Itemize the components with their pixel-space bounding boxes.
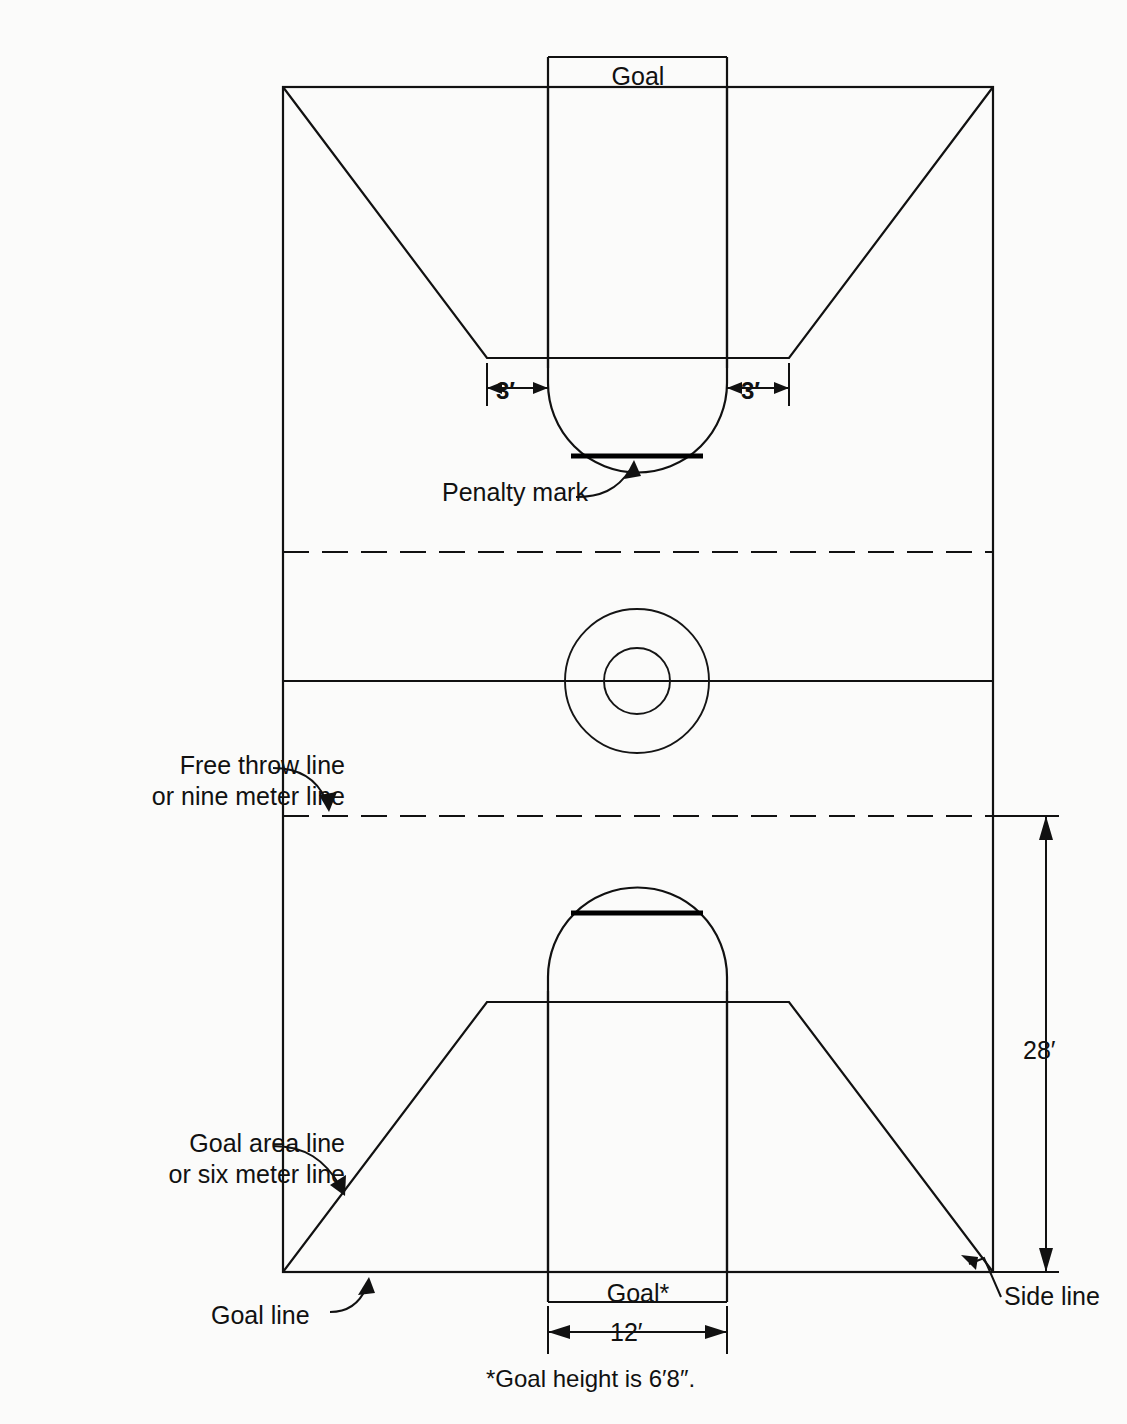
dim-arrow-3ft-left-end xyxy=(533,382,548,394)
dim-arrow-3ft-right-end xyxy=(774,382,789,394)
dim-arrow-12ft-right xyxy=(705,1325,727,1339)
dim-arrow-3ft-right-start xyxy=(727,382,742,394)
penalty-mark-arrowhead xyxy=(624,460,641,479)
side-line-label: Side line xyxy=(1004,1281,1100,1312)
side-line-arrowhead xyxy=(961,1255,978,1270)
goal-box-top-depth xyxy=(548,87,727,368)
goal-area-line-top xyxy=(283,87,993,358)
dim-arrow-12ft-left xyxy=(548,1325,570,1339)
goal-area-arc-top xyxy=(548,87,727,472)
court-svg xyxy=(0,0,1127,1424)
penalty-mark-label: Penalty mark xyxy=(442,477,588,508)
free-throw-line-label: Free throw line or nine meter line xyxy=(85,750,345,812)
goal-line-arrowhead xyxy=(358,1277,375,1295)
dim-arrow-28ft-bottom xyxy=(1039,1248,1053,1272)
dimension-label-3ft-left: 3′ xyxy=(496,376,515,406)
dimension-label-28ft: 28′ xyxy=(1023,1035,1056,1066)
dimension-label-3ft-right: 3′ xyxy=(741,376,760,406)
goal-box-bottom-depth xyxy=(548,991,727,1272)
goal-area-arc-bottom xyxy=(548,887,727,1272)
goal-label-top: Goal xyxy=(553,61,723,92)
dim-arrow-28ft-top xyxy=(1039,816,1053,840)
dimension-label-12ft: 12′ xyxy=(610,1317,643,1348)
court-boundary xyxy=(283,87,993,1272)
court-diagram: Goal 3′ 3′ Penalty mark Free throw line … xyxy=(0,0,1127,1424)
goal-area-line-bottom xyxy=(283,1002,993,1272)
goal-label-bottom: Goal* xyxy=(553,1278,723,1309)
goal-area-line-label: Goal area line or six meter line xyxy=(85,1128,345,1190)
footnote-goal-height: *Goal height is 6′8″. xyxy=(486,1364,695,1394)
goal-line-label: Goal line xyxy=(211,1300,310,1331)
